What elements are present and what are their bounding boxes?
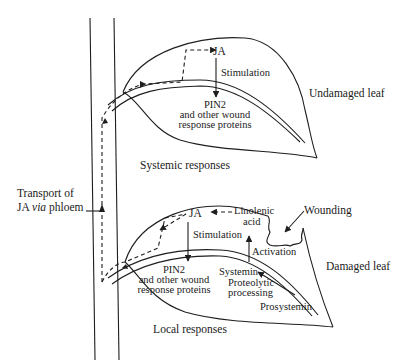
vein-arrowhead-upper [140,81,146,88]
undamaged-leaf-label: Undamaged leaf [309,87,385,100]
linolenic-label-line1: Linolenic [234,205,275,216]
wound-edge [267,216,303,246]
wounding-arrow [285,211,304,232]
activation-label: Activation [252,246,297,257]
transport-label-line1: Transport of [17,187,74,200]
proteolytic-label-line2: processing [228,287,274,298]
local-responses-caption: Local responses [153,323,227,336]
transport-label-line2: JA via phloem [17,201,84,214]
stem-left-edge [90,18,95,360]
lower-ja-label: JA [189,207,202,219]
lower-proteins-line2: response proteins [137,284,210,295]
lower-leaf-right-edge [303,228,333,327]
wounding-label: Wounding [304,204,352,217]
stem-arrowhead-upper [102,118,108,124]
ja-signaling-diagram: JA Stimulation PIN2 and other wound resp… [0,0,401,360]
prosystemin-label: Prosystemin [260,301,313,312]
linolenic-label-line2: acid [243,216,261,227]
upper-ja-label: JA [213,45,226,57]
lower-stimulation-label: Stimulation [193,229,243,240]
systemin-label: Systemin [219,266,259,277]
damaged-leaf-label: Damaged leaf [326,260,390,273]
stem-right-edge [114,18,119,360]
upper-proteins-line2: response proteins [178,119,251,130]
stem [90,18,119,360]
systemic-responses-caption: Systemic responses [140,159,230,172]
upper-stimulation-label: Stimulation [221,67,271,78]
solid-arrows [86,58,304,295]
